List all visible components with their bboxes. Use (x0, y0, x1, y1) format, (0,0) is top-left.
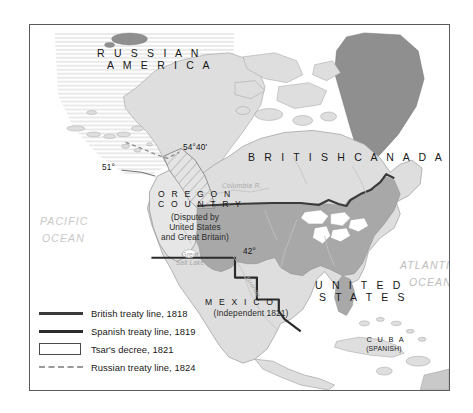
legend-label-tsars-decree: Tsar's decree, 1821 (91, 344, 173, 355)
legend-item-tsars-decree: Tsar's decree, 1821 (38, 340, 253, 358)
map-legend: British treaty line, 1818 Spanish treaty… (38, 304, 253, 376)
legend-item-spanish-treaty-line: Spanish treaty line, 1819 (38, 322, 253, 340)
legend-item-russian-treaty-line: Russian treaty line, 1824 (38, 358, 253, 376)
legend-item-british-treaty-line: British treaty line, 1818 (38, 304, 253, 322)
legend-label-spanish-treaty-line: Spanish treaty line, 1819 (91, 326, 195, 337)
legend-label-russian-treaty-line: Russian treaty line, 1824 (91, 362, 195, 373)
great-salt-lake-water (182, 250, 196, 258)
legend-key-open-box-tsar (38, 342, 84, 356)
historical-map: R U S S I A N A M E R I C A B R I T I S … (0, 0, 473, 413)
legend-key-solid-line-spanish (38, 324, 84, 338)
legend-key-solid-line-british (38, 306, 84, 320)
legend-label-british-treaty-line: British treaty line, 1818 (91, 308, 188, 319)
legend-key-dashed-line-russian (38, 360, 84, 374)
